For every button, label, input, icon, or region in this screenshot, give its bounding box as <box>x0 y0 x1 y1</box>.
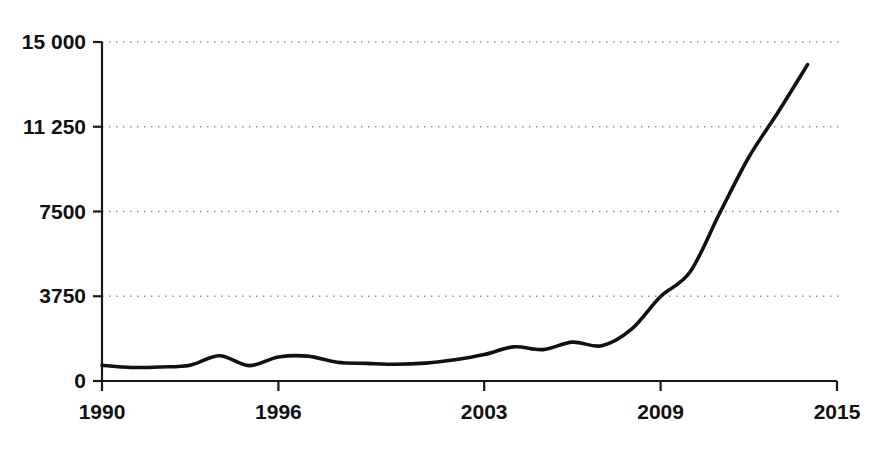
y-tick-label-2: 7500 <box>39 201 86 222</box>
y-tick-label-1: 3750 <box>39 285 86 306</box>
x-tick-label-3: 2009 <box>601 401 721 422</box>
y-ticks-group <box>93 42 102 381</box>
y-tick-label-4: 15 000 <box>22 31 86 52</box>
line-chart: 03750750011 25015 000 199019962003200920… <box>0 0 880 453</box>
axes-group <box>102 42 837 381</box>
y-tick-label-0: 0 <box>74 370 86 391</box>
y-tick-label-3: 11 250 <box>23 116 86 137</box>
x-tick-label-2: 2003 <box>424 401 544 422</box>
data-series-group <box>102 65 808 368</box>
x-tick-label-0: 1990 <box>42 401 162 422</box>
x-tick-label-4: 2015 <box>777 401 880 422</box>
chart-plot-area <box>0 0 880 453</box>
series-line-value <box>102 65 808 368</box>
gridlines-group <box>102 42 839 296</box>
x-tick-label-1: 1996 <box>218 401 338 422</box>
x-ticks-group <box>102 381 837 391</box>
